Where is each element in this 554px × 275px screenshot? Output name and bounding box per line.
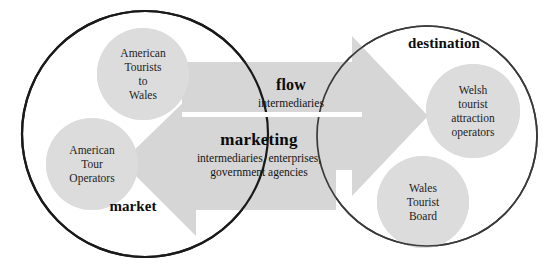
node-line: attraction — [451, 111, 494, 125]
node-line: American — [120, 46, 165, 60]
marketing-subtitle-line: intermediaries, enterprises, — [197, 152, 321, 166]
node-line: Operators — [69, 171, 114, 185]
flow-arrow-title: flow — [276, 76, 306, 94]
node-line: Wales — [407, 181, 439, 195]
marketing-arrow-title: marketing — [220, 130, 297, 149]
node-line: to — [120, 74, 165, 88]
node-line: Tourist — [407, 195, 439, 209]
arrow-band-separator-right — [336, 112, 362, 117]
node-line: American — [69, 143, 114, 157]
node-line: Tourists — [120, 60, 165, 74]
node-label-wales-tourist-board: Wales Tourist Board — [407, 181, 439, 223]
node-line: Board — [407, 209, 439, 223]
node-label-welsh-tourist-attraction-operators: Welsh tourist attraction operators — [451, 83, 494, 139]
marketing-arrow-subtitle: intermediaries, enterprises, government … — [197, 152, 321, 179]
marketing-subtitle-line: government agencies — [197, 166, 321, 180]
node-line: tourist — [451, 97, 494, 111]
node-line: Tour — [69, 157, 114, 171]
zone-label-market: market — [109, 198, 156, 215]
zone-label-destination: destination — [408, 35, 480, 52]
arrow-band-separator — [182, 112, 338, 117]
node-line: operators — [451, 125, 494, 139]
tourism-flow-diagram: American Tourists to Wales American Tour… — [0, 0, 554, 275]
node-label-american-tourists-to-wales: American Tourists to Wales — [120, 46, 165, 102]
flow-arrow-subtitle: intermediaries — [258, 97, 324, 110]
node-label-american-tour-operators: American Tour Operators — [69, 143, 114, 185]
node-line: Wales — [120, 88, 165, 102]
node-line: Welsh — [451, 83, 494, 97]
